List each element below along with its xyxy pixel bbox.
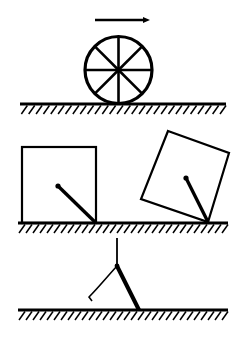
wheel-hub [116,67,121,72]
wheel [85,37,152,104]
tipped-block-centre-dot [183,175,188,180]
canvas-background [0,0,245,347]
upright-block-centre-dot [55,183,60,188]
pivot-point [115,264,120,269]
diagram-svg [0,0,245,347]
figure-canvas [0,0,245,347]
